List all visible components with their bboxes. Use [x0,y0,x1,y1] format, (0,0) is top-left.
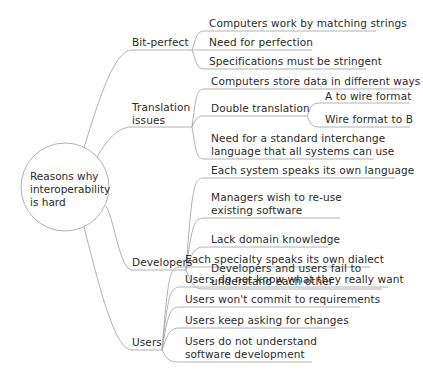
root-node[interactable]: Reasons why interoperability is hard [30,170,110,209]
leaf-users-keep-asking[interactable]: Users keep asking for changes [185,314,349,327]
leaf-users-dont-understand[interactable]: Users do not understand software develop… [185,335,317,361]
branch-translation-issues[interactable]: Translation issues [132,101,190,127]
leaf-computers-match-strings[interactable]: Computers work by matching strings [209,17,407,30]
leaf-a-to-wire-format[interactable]: A to wire format [325,90,411,103]
leaf-each-specialty-dialect[interactable]: Each specialty speaks its own dialect [185,253,384,266]
leaf-users-wont-commit[interactable]: Users won't commit to requirements [185,293,380,306]
connector-root-translation [97,127,192,157]
leaf-standard-interchange-line-2: language that all systems can use [211,145,394,158]
branch-translation-line-1: Translation [132,101,190,114]
leaf-managers-reuse-line-2: existing software [211,204,342,217]
connector-root-users [84,227,162,350]
connector-root-bitperfect [84,50,192,148]
leaf-computers-store-data[interactable]: Computers store data in different ways [211,75,420,88]
branch-translation-line-2: issues [132,114,190,127]
branch-users[interactable]: Users [132,336,162,349]
leaf-need-for-perfection[interactable]: Need for perfection [209,36,313,49]
leaf-specifications-stringent[interactable]: Specifications must be stringent [209,55,382,68]
leaf-lack-domain-knowledge[interactable]: Lack domain knowledge [211,233,340,246]
root-line-3: is hard [30,196,110,209]
root-line-2: interoperability [30,183,110,196]
leaf-wire-format-to-b[interactable]: Wire format to B [325,113,413,126]
leaf-each-system-language[interactable]: Each system speaks its own language [211,164,414,177]
leaf-standard-interchange-line-1: Need for a standard interchange [211,132,394,145]
leaf-managers-reuse[interactable]: Managers wish to re-use existing softwar… [211,191,342,217]
root-line-1: Reasons why [30,170,110,183]
branch-developers[interactable]: Developers [132,256,192,269]
leaf-managers-reuse-line-1: Managers wish to re-use [211,191,342,204]
leaf-users-dont-understand-line-2: software development [185,348,317,361]
branch-bit-perfect[interactable]: Bit-perfect [132,36,189,49]
leaf-double-translation[interactable]: Double translation [211,102,310,115]
leaf-users-dont-know[interactable]: Users do not know what they really want [185,273,404,286]
leaf-standard-interchange[interactable]: Need for a standard interchange language… [211,132,394,158]
leaf-users-dont-understand-line-1: Users do not understand [185,335,317,348]
